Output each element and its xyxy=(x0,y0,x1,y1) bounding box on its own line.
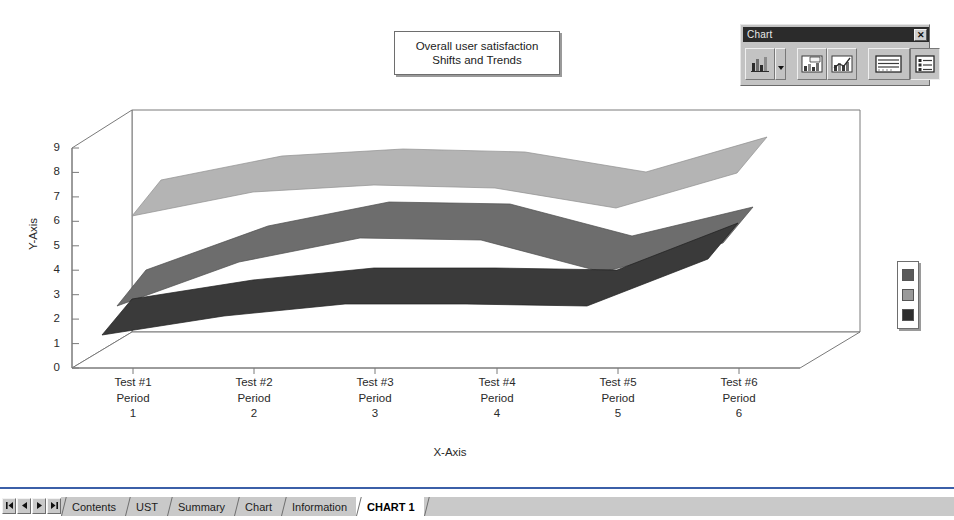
bar-chart-icon xyxy=(750,55,770,73)
chart-toolbar-buttons xyxy=(745,45,940,83)
sheet-tab-contents-label: Contents xyxy=(72,501,116,513)
sheet-tabs: Contents UST Summary Chart Information C… xyxy=(61,495,954,516)
sheet-tab-bar: Contents UST Summary Chart Information C… xyxy=(0,487,954,520)
x-category-3-line2: Period xyxy=(315,391,435,407)
x-category-5-line3: 5 xyxy=(558,406,678,422)
y-tick-8: 8 xyxy=(42,165,60,177)
first-sheet-icon xyxy=(5,501,14,510)
y-tick-5: 5 xyxy=(42,239,60,251)
chart-toolbar[interactable]: Chart ✕ xyxy=(740,24,930,86)
view-group xyxy=(797,48,857,80)
x-category-2-line1: Test #2 xyxy=(194,375,314,391)
y-tick-9: 9 xyxy=(42,141,60,153)
chart-title-line1: Overall user satisfaction xyxy=(416,39,539,53)
y-axis-label: Y-Axis xyxy=(27,199,39,269)
sheet-tab-ust[interactable]: UST xyxy=(125,496,167,516)
x-category-4-line2: Period xyxy=(437,391,557,407)
sheet-tab-strip: Contents UST Summary Chart Information C… xyxy=(0,495,954,516)
sheet-tab-ust-label: UST xyxy=(136,501,158,513)
x-category-1-line3: 1 xyxy=(73,406,193,422)
sheet-tab-information[interactable]: Information xyxy=(281,496,356,516)
legend-swatch-3 xyxy=(902,309,914,321)
data-table-icon xyxy=(874,54,904,74)
last-sheet-icon xyxy=(50,501,59,510)
x-category-1-line1: Test #1 xyxy=(73,375,193,391)
x-category-2-line2: Period xyxy=(194,391,314,407)
format-object-button[interactable] xyxy=(910,48,940,80)
x-category-5-line2: Period xyxy=(558,391,678,407)
plot-floor xyxy=(72,332,860,368)
bar-line-chart-icon xyxy=(831,55,853,73)
sheet-tab-summary[interactable]: Summary xyxy=(167,496,234,516)
x-category-5: Test #5 Period 5 xyxy=(558,375,678,422)
chart-legend[interactable] xyxy=(897,261,919,329)
x-category-4-line1: Test #4 xyxy=(437,375,557,391)
chart-title-line2: Shifts and Trends xyxy=(432,53,522,67)
y-tick-3: 3 xyxy=(42,288,60,300)
sheet-tab-chart-1[interactable]: CHART 1 xyxy=(356,496,424,516)
x-category-6-line3: 6 xyxy=(679,406,799,422)
x-axis-label: X-Axis xyxy=(385,446,515,458)
prev-sheet-icon xyxy=(20,501,29,510)
y-tick-0: 0 xyxy=(42,361,60,373)
y-tick-7: 7 xyxy=(42,190,60,202)
tab-nav-first[interactable] xyxy=(2,498,16,514)
tab-nav-last[interactable] xyxy=(47,498,61,514)
x-category-6-line1: Test #6 xyxy=(679,375,799,391)
sheet-nav-buttons xyxy=(0,495,61,516)
sheet-tab-contents[interactable]: Contents xyxy=(61,496,125,516)
sheet-tab-chart-label: Chart xyxy=(245,501,272,513)
chart-type-button[interactable] xyxy=(745,48,775,80)
y-tick-4: 4 xyxy=(42,263,60,275)
x-category-2-line3: 2 xyxy=(194,406,314,422)
chart-type-group xyxy=(745,48,786,80)
sheet-tab-chart[interactable]: Chart xyxy=(234,496,281,516)
y-tick-1: 1 xyxy=(42,337,60,349)
sheet-tab-chart-1-label: CHART 1 xyxy=(367,501,415,513)
x-category-6-line2: Period xyxy=(679,391,799,407)
by-column-button[interactable] xyxy=(827,48,857,80)
x-category-3-line3: 3 xyxy=(315,406,435,422)
x-category-4-line3: 4 xyxy=(437,406,557,422)
chart-toolbar-titlebar[interactable]: Chart ✕ xyxy=(743,27,929,42)
chart-toolbar-title: Chart xyxy=(743,29,914,40)
x-category-4: Test #4 Period 4 xyxy=(437,375,557,422)
x-category-2: Test #2 Period 2 xyxy=(194,375,314,422)
sheet-tab-information-label: Information xyxy=(292,501,347,513)
legend-swatch-1 xyxy=(902,269,914,281)
legend-swatch-2 xyxy=(902,289,914,301)
sheet-tab-empty-area xyxy=(424,496,954,516)
sheet-tab-summary-label: Summary xyxy=(178,501,225,513)
data-table-button[interactable] xyxy=(868,48,910,80)
close-icon[interactable]: ✕ xyxy=(914,29,927,41)
tab-nav-next[interactable] xyxy=(32,498,46,514)
chart-legend-icon xyxy=(801,55,823,73)
data-group xyxy=(868,48,940,80)
x-category-3: Test #3 Period 3 xyxy=(315,375,435,422)
y-tick-6: 6 xyxy=(42,214,60,226)
x-category-3-line1: Test #3 xyxy=(315,375,435,391)
next-sheet-icon xyxy=(35,501,44,510)
y-tick-2: 2 xyxy=(42,312,60,324)
tab-nav-prev[interactable] xyxy=(17,498,31,514)
x-axis-ticks xyxy=(133,368,739,374)
x-category-6: Test #6 Period 6 xyxy=(679,375,799,422)
x-category-1-line2: Period xyxy=(73,391,193,407)
x-category-5-line1: Test #5 xyxy=(558,375,678,391)
legend-toggle-button[interactable] xyxy=(797,48,827,80)
format-list-icon xyxy=(914,54,936,74)
x-category-1: Test #1 Period 1 xyxy=(73,375,193,422)
chart-title-box[interactable]: Overall user satisfaction Shifts and Tre… xyxy=(394,31,560,75)
tab-divider xyxy=(0,487,954,489)
chart-window: 9 8 7 6 5 4 3 2 1 0 Y-Axis X-Axis Test #… xyxy=(0,0,954,520)
chart-type-dropdown[interactable] xyxy=(775,48,786,80)
chevron-down-icon xyxy=(778,66,784,70)
